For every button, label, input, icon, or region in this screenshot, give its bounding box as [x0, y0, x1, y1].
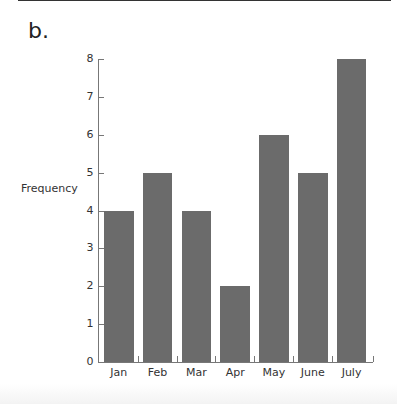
y-tick-label: 8 — [84, 52, 96, 65]
y-tick — [98, 59, 104, 60]
y-tick-label: 1 — [84, 317, 96, 330]
x-tick — [293, 356, 294, 362]
x-tick-label: July — [332, 366, 372, 379]
x-tick — [332, 356, 333, 362]
bar-feb — [143, 173, 173, 362]
x-tick-label: Jan — [99, 366, 139, 379]
bar-july — [337, 59, 367, 362]
bar-mar — [182, 211, 212, 363]
y-tick-label: 2 — [84, 279, 96, 292]
x-tick-label: June — [293, 366, 333, 379]
y-tick — [98, 97, 104, 98]
x-tick-label: May — [254, 366, 294, 379]
y-tick-label: 0 — [84, 355, 96, 368]
part-label: b. — [28, 18, 49, 43]
x-tick — [215, 356, 216, 362]
bar-jan — [104, 211, 134, 363]
table-bottom-edge — [18, 0, 391, 1]
y-tick-label: 6 — [84, 128, 96, 141]
bar-apr — [220, 286, 250, 362]
x-tick — [254, 356, 255, 362]
y-tick — [98, 362, 104, 363]
scan-band — [0, 384, 397, 404]
y-tick — [98, 173, 104, 174]
y-tick — [98, 135, 104, 136]
x-tick-label: Mar — [176, 366, 216, 379]
y-tick-label: 5 — [84, 166, 96, 179]
y-axis-title: Frequency — [21, 182, 78, 195]
y-tick-label: 3 — [84, 241, 96, 254]
x-tick-label: Apr — [215, 366, 255, 379]
bar-june — [298, 173, 328, 362]
x-tick — [138, 356, 139, 362]
x-tick-label: Feb — [138, 366, 178, 379]
bar-may — [259, 135, 289, 362]
y-tick-label: 7 — [84, 90, 96, 103]
x-tick — [373, 356, 374, 362]
y-tick-label: 4 — [84, 204, 96, 217]
x-axis — [98, 362, 373, 363]
x-tick — [177, 356, 178, 362]
